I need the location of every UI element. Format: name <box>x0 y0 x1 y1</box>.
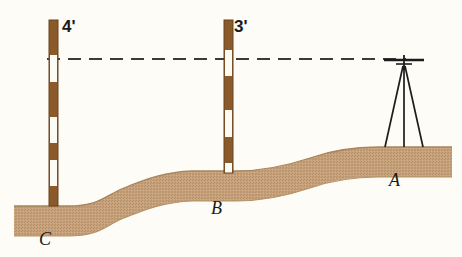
rod-middle-stripe-3 <box>225 163 232 173</box>
leveling-rod-middle <box>224 20 233 173</box>
rod-middle-reading-label: 3' <box>234 18 248 35</box>
diagram-canvas <box>0 0 462 257</box>
leveling-rod-left <box>49 20 58 206</box>
point-label-a: A <box>389 171 400 189</box>
point-label-b: B <box>211 199 222 217</box>
rod-middle-stripe-1 <box>225 50 232 76</box>
rod-middle-body <box>224 20 233 173</box>
rod-middle-stripe-2 <box>225 110 232 137</box>
rod-left-stripe-2 <box>50 117 57 143</box>
leveling-diagram-figure: 4' 3' C B A <box>0 0 462 257</box>
rod-left-reading-label: 4' <box>62 18 76 35</box>
rod-left-stripe-1 <box>50 55 57 82</box>
point-label-c: C <box>39 230 51 248</box>
rod-left-stripe-3 <box>50 160 57 186</box>
